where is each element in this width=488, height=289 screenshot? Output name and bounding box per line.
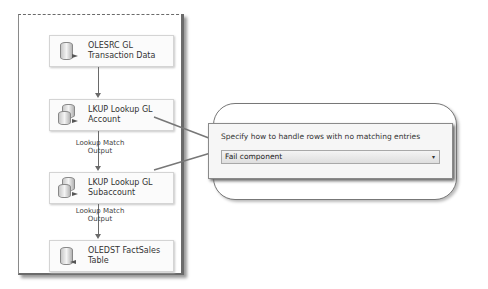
chevron-down-icon[interactable]: ▾	[432, 151, 435, 163]
node-label-line1: LKUP Lookup GL	[88, 105, 153, 115]
no-match-handling-select[interactable]: Fail component ▾	[221, 150, 440, 164]
path-label: Lookup Match Output	[65, 207, 135, 223]
arrow-down-icon	[95, 166, 101, 171]
no-match-handling-panel: Specify how to handle rows with no match…	[208, 123, 453, 179]
path-connector[interactable]	[98, 67, 99, 95]
lookup-icon	[58, 177, 80, 199]
path-label: Lookup Match Output	[65, 139, 135, 155]
node-label-line2: Transaction Data	[88, 51, 155, 61]
database-source-icon	[58, 40, 80, 62]
node-oledst-factsales-table[interactable]: OLEDST FactSales Table	[49, 240, 174, 272]
node-lkup-lookup-gl-subaccount[interactable]: LKUP Lookup GL Subaccount	[49, 172, 174, 204]
no-match-prompt-label: Specify how to handle rows with no match…	[221, 132, 420, 141]
arrow-down-icon	[95, 93, 101, 98]
node-label-line1: LKUP Lookup GL	[88, 178, 153, 188]
arrow-down-icon	[95, 234, 101, 239]
database-destination-icon	[58, 245, 80, 267]
node-label-line2: Account	[88, 115, 153, 125]
select-value: Fail component	[222, 152, 282, 161]
node-label-line2: Table	[88, 256, 160, 266]
node-olesrc-gl-transaction-data[interactable]: OLESRC GL Transaction Data	[49, 35, 174, 67]
lookup-icon	[58, 104, 80, 126]
node-label-line2: Subaccount	[88, 188, 153, 198]
node-label-line1: OLESRC GL	[88, 41, 155, 51]
node-label-line1: OLEDST FactSales	[88, 246, 160, 256]
